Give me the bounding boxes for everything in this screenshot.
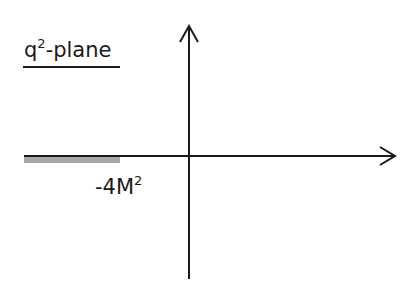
title-superscript: 2 xyxy=(37,36,45,51)
branch-label-base: -4M xyxy=(95,175,134,199)
plane-title: q2-plane xyxy=(24,38,111,62)
branch-cut-shading xyxy=(24,156,120,163)
title-underline xyxy=(23,66,120,68)
branch-point-label: -4M2 xyxy=(95,175,142,199)
title-suffix: -plane xyxy=(46,38,112,62)
branch-label-superscript: 2 xyxy=(134,173,142,188)
title-base: q xyxy=(24,38,37,62)
